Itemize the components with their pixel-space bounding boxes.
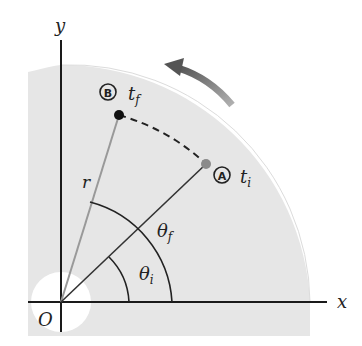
radius-label: r: [82, 172, 91, 192]
y-axis-label: y: [54, 15, 66, 36]
diagram-svg: B A tf ti r θf θi y x O: [0, 0, 362, 346]
point-a-dot: [201, 159, 211, 169]
svg-text:A: A: [218, 170, 227, 183]
rotation-diagram: B A tf ti r θf θi y x O: [0, 0, 362, 346]
origin-label: O: [38, 309, 53, 330]
point-b-dot: [114, 110, 124, 120]
rotation-arrow-head: [164, 58, 184, 76]
x-axis-label: x: [337, 291, 347, 312]
svg-text:B: B: [104, 87, 112, 100]
